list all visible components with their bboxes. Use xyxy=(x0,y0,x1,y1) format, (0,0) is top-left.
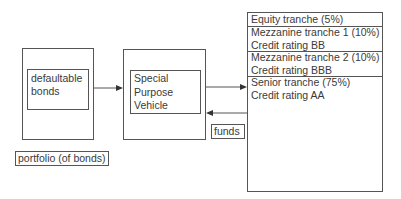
arrows-layer xyxy=(0,0,401,199)
arrow-portfolio-to-spv xyxy=(94,85,123,91)
arrow-funds-to-spv xyxy=(206,110,247,116)
arrow-spv-to-tranches xyxy=(206,84,247,90)
